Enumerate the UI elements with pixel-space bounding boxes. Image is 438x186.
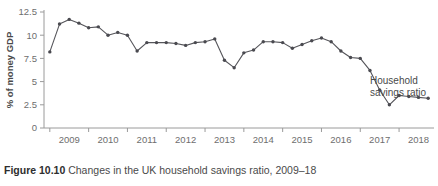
data-point [213, 37, 216, 40]
data-point [87, 26, 90, 29]
x-tick-label: 2010 [97, 134, 118, 145]
annotation-line-2: savings ratio [370, 87, 427, 98]
data-point [165, 41, 168, 44]
data-point [310, 39, 313, 42]
data-point [126, 34, 129, 37]
y-tick-label: 5 [32, 76, 37, 87]
x-tick-label: 2009 [59, 134, 80, 145]
data-point [300, 43, 303, 46]
data-point [58, 22, 61, 25]
data-point [388, 103, 391, 106]
x-tick-label: 2016 [330, 134, 351, 145]
data-point [184, 44, 187, 47]
data-point [48, 50, 51, 53]
data-point [368, 69, 371, 72]
data-point [106, 34, 109, 37]
x-tick-label: 2011 [137, 134, 157, 145]
data-point [329, 40, 332, 43]
data-point [155, 41, 158, 44]
data-point [145, 41, 148, 44]
figure-container: 02.557.51012.520092010201120122013201420… [0, 0, 438, 186]
data-point [242, 51, 245, 54]
data-point [320, 36, 323, 39]
data-point [232, 66, 235, 69]
x-tick-label: 2018 [408, 134, 429, 145]
data-point [359, 57, 362, 60]
y-tick-label: 0 [32, 122, 37, 133]
data-point [97, 25, 100, 28]
x-tick-label: 2012 [175, 134, 196, 145]
data-point [339, 49, 342, 52]
data-point [174, 42, 177, 45]
y-axis-title: % of money GDP [4, 31, 15, 108]
data-point [281, 41, 284, 44]
chart-plot-area: 02.557.51012.520092010201120122013201420… [0, 0, 438, 160]
caption-description: Changes in the UK household savings rati… [65, 164, 316, 176]
data-point [116, 31, 119, 34]
data-point [68, 18, 71, 21]
annotation-line-1: Household [370, 75, 418, 86]
data-point [426, 97, 429, 100]
x-tick-label: 2014 [253, 134, 274, 145]
data-point [77, 21, 80, 24]
y-tick-label: 7.5 [24, 53, 37, 64]
y-tick-label: 2.5 [24, 99, 37, 110]
data-point [262, 40, 265, 43]
data-point [291, 46, 294, 49]
data-point [194, 41, 197, 44]
data-point [349, 56, 352, 59]
data-point [203, 40, 206, 43]
data-point [252, 48, 255, 51]
data-point [271, 40, 274, 43]
x-tick-label: 2015 [291, 134, 312, 145]
figure-caption: Figure 10.10 Changes in the UK household… [4, 163, 436, 177]
x-tick-label: 2017 [369, 134, 390, 145]
line-chart-svg: 02.557.51012.520092010201120122013201420… [0, 0, 438, 160]
x-tick-label: 2013 [214, 134, 235, 145]
y-tick-label: 10 [26, 30, 37, 41]
caption-figure-number: Figure 10.10 [4, 164, 65, 176]
data-point [223, 59, 226, 62]
y-tick-label: 12.5 [19, 6, 38, 17]
data-point [135, 49, 138, 52]
